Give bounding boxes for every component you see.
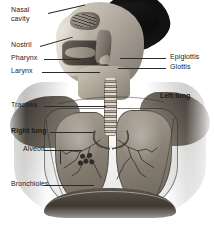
- alveoli-cluster: [76, 150, 98, 168]
- label-right-lung: Right lung: [11, 127, 47, 136]
- leader-line-glottis: [118, 68, 166, 69]
- label-nostril: Nostril: [11, 41, 32, 50]
- label-pharynx: Pharynx: [11, 54, 37, 63]
- leader-line-bronchioles: [44, 185, 94, 186]
- leader-line-trachea: [44, 106, 106, 107]
- leader-line-pharynx: [44, 59, 80, 60]
- label-left-lung: Left lung: [160, 92, 190, 101]
- label-epiglottis: Epiglottis: [170, 53, 199, 62]
- leader-line-alveoli-drop: [60, 150, 61, 164]
- label-nasal-cavity-line1: Nasal: [11, 6, 29, 13]
- right-edge-fade: [186, 60, 214, 230]
- leader-line-epiglottis: [120, 58, 166, 59]
- label-nasal-cavity-line2: cavity: [11, 15, 30, 22]
- leader-line-larynx: [42, 72, 100, 73]
- label-trachea: Trachea: [11, 101, 37, 110]
- leader-line-alveoli: [44, 150, 82, 151]
- label-larynx: Larynx: [11, 67, 33, 76]
- leader-line-right-lung: [50, 132, 94, 133]
- bottom-edge-fade: [0, 206, 214, 238]
- label-alveoli: Alveoli: [23, 145, 44, 154]
- label-glottis: Glottis: [170, 63, 191, 72]
- label-bronchioles: Bronchioles: [11, 180, 49, 189]
- respiratory-system-diagram: Nasal cavity Nostril Pharynx Larynx Trac…: [0, 0, 214, 238]
- label-nasal-cavity: Nasal cavity: [11, 6, 45, 23]
